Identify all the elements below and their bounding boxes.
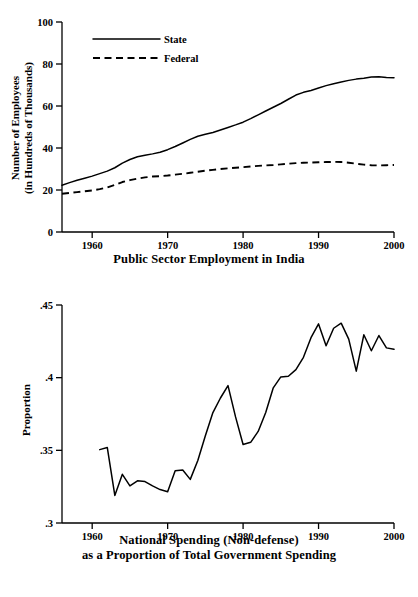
x-tick-label: 1980: [233, 240, 254, 250]
axis-lines-group: [62, 305, 394, 523]
employment-line-chart: Number of Employees (in Hundreds of Thou…: [0, 0, 418, 250]
y-axis-title-line1: Number of Employees: [9, 75, 21, 180]
legend-label-federal: Federal: [164, 53, 198, 64]
y-tick-label: .4: [45, 372, 54, 383]
series-line-proportion: [100, 323, 394, 495]
caption-line: Public Sector Employment in India: [0, 252, 418, 267]
caption-line-1: National Spending (Non-defense): [0, 533, 418, 548]
chart-panel-employment: Number of Employees (in Hundreds of Thou…: [0, 0, 418, 290]
caption-line-2: as a Proportion of Total Government Spen…: [0, 548, 418, 563]
y-tick-label: .45: [40, 300, 53, 311]
x-tick-label: 1990: [308, 240, 329, 250]
chart-caption-employment: Public Sector Employment in India: [0, 252, 418, 267]
y-tick-label: 100: [37, 17, 53, 28]
figure-page: Number of Employees (in Hundreds of Thou…: [0, 0, 418, 597]
axis-ticks-group: 02040608010019601970198019902000: [37, 17, 404, 250]
series-line-federal: [62, 162, 394, 194]
chart-panel-spending: Proportion .3.35.4.451960197019801990200…: [0, 290, 418, 597]
legend: State Federal: [93, 34, 198, 64]
spending-line-chart: Proportion .3.35.4.451960197019801990200…: [0, 290, 418, 540]
x-tick-label: 2000: [384, 240, 405, 250]
y-axis-title: Proportion: [20, 384, 32, 436]
data-series-group: [62, 77, 394, 194]
series-line-state: [62, 77, 394, 185]
y-tick-label: 20: [43, 185, 54, 196]
x-tick-label: 1960: [82, 240, 103, 250]
x-tick-label: 1970: [157, 240, 178, 250]
chart-caption-spending: National Spending (Non-defense) as a Pro…: [0, 533, 418, 564]
axis-ticks-group: .3.35.4.4519601970198019902000: [40, 300, 405, 540]
data-series-group: [100, 323, 394, 495]
y-tick-label: .3: [45, 518, 53, 529]
legend-label-state: State: [164, 34, 187, 45]
y-axis-title-line2: (in Hundreds of Thousands): [22, 62, 35, 194]
y-tick-label: .35: [40, 445, 53, 456]
y-tick-label: 60: [43, 101, 54, 112]
y-tick-label: 0: [48, 227, 53, 238]
y-tick-label: 80: [43, 59, 54, 70]
y-tick-label: 40: [43, 143, 54, 154]
